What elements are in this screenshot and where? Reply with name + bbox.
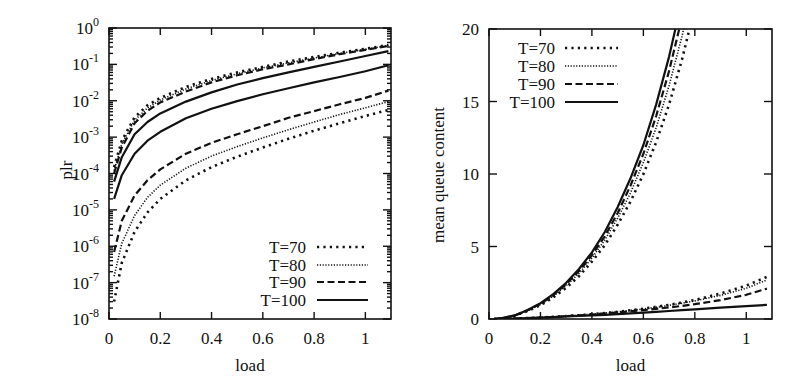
legend-label: T=90 (518, 75, 555, 94)
legend-item-T100: T=100 (510, 93, 618, 112)
x-tick-label: 0.2 (150, 329, 171, 348)
y-tick-label: 10-6 (72, 233, 99, 256)
legend-item-T80: T=80 (518, 57, 618, 76)
legend: T=70T=80T=90T=100 (510, 39, 618, 112)
curve-T90-upper (114, 46, 388, 174)
y-tick-label: 10-8 (72, 306, 99, 329)
y-tick-label: 10 (462, 165, 479, 184)
y-tick-label: 5 (471, 238, 480, 257)
legend: T=70T=80T=90T=100 (261, 238, 368, 310)
curve-T80-lower (114, 102, 388, 277)
legend-item-T90: T=90 (269, 273, 368, 292)
x-tick-label: 0.4 (201, 329, 223, 348)
curve-T70-lower (114, 110, 388, 302)
x-tick-label: 1 (361, 329, 370, 348)
curves (114, 45, 388, 302)
figure: load plr load mean queue content 00.20.4… (0, 0, 798, 390)
curve-T90-lower (114, 91, 388, 252)
y-tick-label: 15 (462, 93, 479, 112)
x-tick-label: 1 (742, 329, 751, 348)
x-tick-label: 0.2 (530, 329, 551, 348)
y-tick-label: 10-3 (72, 124, 99, 147)
x-axis-label: load (235, 356, 265, 375)
legend-item-T70: T=70 (518, 39, 618, 58)
legend-item-T90: T=90 (518, 75, 618, 94)
x-axis-label: load (616, 356, 646, 375)
curve-T100-upper (114, 51, 388, 181)
legend-label: T=70 (518, 39, 555, 58)
legend-label: T=90 (269, 273, 306, 292)
legend-label: T=100 (510, 93, 555, 112)
chart-canvas: 00.20.40.60.8110010-110-210-310-410-510-… (0, 0, 798, 390)
x-tick-label: 0.8 (684, 329, 705, 348)
y-tick-label: 10-7 (72, 270, 99, 293)
plr-chart: 00.20.40.60.8110010-110-210-310-410-510-… (57, 15, 391, 375)
curve-T70-upper (114, 45, 388, 167)
curve-T100-lower (114, 65, 388, 199)
y-tick-label: 100 (76, 15, 99, 38)
legend-label: T=70 (269, 238, 306, 257)
legend-label: T=100 (261, 291, 306, 310)
x-tick-label: 0.6 (633, 329, 654, 348)
y-tick-label: 20 (462, 20, 479, 39)
x-tick-label: 0.6 (252, 329, 273, 348)
y-tick-label: 10-1 (72, 51, 99, 74)
y-axis-label: mean queue content (429, 107, 448, 243)
y-tick-label: 10-5 (72, 197, 99, 220)
x-tick-label: 0 (105, 329, 114, 348)
x-tick-label: 0.8 (303, 329, 324, 348)
legend-item-T70: T=70 (269, 238, 368, 257)
curve-T90-lower (494, 289, 767, 319)
y-tick-label: 10-2 (72, 88, 99, 111)
mean-queue-content-chart: 00.20.40.60.8105101520loadmean queue con… (429, 0, 772, 375)
y-tick-label: 0 (471, 310, 480, 329)
y-axis-label: plr (57, 160, 76, 179)
y-tick-label: 10-4 (72, 161, 99, 184)
legend-label: T=80 (518, 57, 555, 76)
x-tick-label: 0 (485, 329, 494, 348)
x-tick-label: 0.4 (581, 329, 603, 348)
legend-item-T100: T=100 (261, 291, 368, 310)
